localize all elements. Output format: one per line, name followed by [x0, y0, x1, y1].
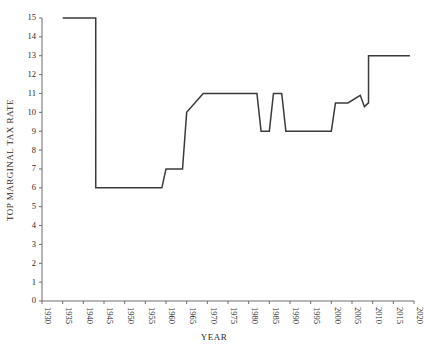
- y-tick-label: 14: [28, 31, 37, 41]
- y-tick-label: 12: [28, 69, 37, 79]
- x-tick-label: 2010: [374, 307, 384, 324]
- y-tick-label: 9: [32, 126, 36, 136]
- y-tick-label: 0: [32, 295, 36, 305]
- x-tick-label: 1935: [64, 307, 74, 324]
- y-tick-label: 13: [28, 50, 37, 60]
- x-tick-label: 1970: [209, 307, 219, 324]
- y-tick-label: 8: [32, 145, 36, 155]
- x-tick-label: 1995: [312, 307, 322, 324]
- x-tick-label: 2015: [395, 307, 405, 324]
- y-tick-label: 10: [28, 107, 37, 117]
- x-tick-label: 2000: [333, 307, 343, 324]
- tax-rate-line-chart: 0123456789101112131415 19301935194019451…: [0, 0, 425, 346]
- x-tick-label: 1940: [85, 307, 95, 324]
- x-tick-label: 1985: [271, 307, 281, 324]
- x-tick-label: 1945: [105, 307, 115, 324]
- x-tick-label: 1955: [147, 307, 157, 324]
- y-tick-label: 7: [32, 163, 36, 173]
- x-axis-title: YEAR: [201, 332, 228, 342]
- y-tick-label: 3: [32, 239, 36, 249]
- x-tick-label: 2005: [353, 307, 363, 324]
- chart-background: [0, 0, 425, 346]
- y-tick-label: 1: [32, 277, 36, 287]
- y-tick-label: 2: [32, 258, 36, 268]
- y-tick-label: 11: [28, 88, 36, 98]
- y-tick-label: 6: [32, 182, 36, 192]
- y-tick-label: 5: [32, 201, 36, 211]
- x-tick-label: 1990: [291, 307, 301, 324]
- x-tick-label: 1950: [126, 307, 136, 324]
- chart-container: 0123456789101112131415 19301935194019451…: [0, 0, 425, 346]
- x-tick-label: 1980: [250, 307, 260, 324]
- x-tick-label: 1930: [43, 307, 53, 324]
- x-tick-label: 1965: [188, 307, 198, 324]
- y-tick-label: 15: [28, 12, 37, 22]
- x-tick-label: 2020: [415, 307, 425, 324]
- y-axis-title: TOP MARGINAL TAX RATE: [5, 99, 15, 221]
- x-tick-label: 1975: [229, 307, 239, 324]
- x-tick-label: 1960: [167, 307, 177, 324]
